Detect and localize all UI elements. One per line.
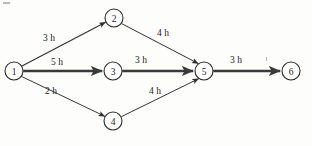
node-1-label: 1 [12,67,17,77]
node-5: 5 [195,62,213,80]
node-1: 1 [5,62,23,80]
node-3-label: 3 [111,67,116,77]
node-4: 4 [104,112,122,130]
scan-speck-group [3,2,267,61]
edge-label-3-to-5: 3 h [135,55,147,65]
edge-label-2-to-5: 4 h [157,28,169,38]
network-diagram-canvas: 3 h 5 h 2 h 4 h 3 h 4 h 3 h 1 2 3 [0,0,312,146]
node-3: 3 [104,62,122,80]
edge-label-1-to-3: 5 h [51,57,63,67]
node-2: 2 [105,9,123,27]
edge-1-to-2 [22,22,106,66]
edge-label-group: 3 h 5 h 2 h 4 h 3 h 4 h 3 h [43,28,242,96]
node-2-label: 2 [112,14,117,24]
network-diagram-svg: 3 h 5 h 2 h 4 h 3 h 4 h 3 h 1 2 3 [0,0,312,146]
edge-group [21,22,280,116]
node-6: 6 [282,62,300,80]
edge-label-4-to-5: 4 h [149,86,161,96]
edge-label-1-to-4: 2 h [45,86,57,96]
node-group: 1 2 3 4 5 6 [5,9,300,130]
node-4-label: 4 [111,117,116,127]
node-6-label: 6 [289,67,294,77]
edge-4-to-5 [121,79,198,117]
edge-1-to-4 [21,76,105,116]
node-5-label: 5 [202,67,207,77]
scan-speck-top-left [3,2,10,4]
edge-label-5-to-6: 3 h [230,55,242,65]
edge-label-1-to-2: 3 h [43,33,55,43]
scan-speck-upper-right [266,57,267,61]
